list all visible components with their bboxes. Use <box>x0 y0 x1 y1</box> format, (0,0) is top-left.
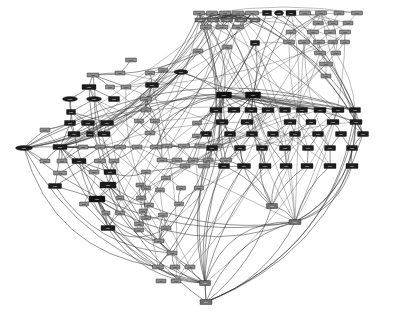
graph-node[interactable]: node <box>78 145 88 149</box>
graph-node[interactable]: node <box>146 71 155 75</box>
graph-node[interactable]: node <box>257 146 268 151</box>
graph-node[interactable]: node <box>268 132 279 137</box>
graph-node[interactable]: node <box>40 128 50 132</box>
graph-node[interactable]: node <box>121 85 131 89</box>
graph-node[interactable]: node <box>102 211 110 215</box>
graph-node[interactable]: node <box>207 146 218 151</box>
graph-node[interactable]: node <box>139 209 147 213</box>
graph-node[interactable]: node <box>98 132 110 137</box>
graph-node[interactable]: node <box>346 164 358 169</box>
graph-node[interactable]: node <box>68 132 80 137</box>
graph-node[interactable]: node <box>162 144 172 148</box>
graph-node[interactable]: node <box>80 202 89 206</box>
graph-node[interactable]: node <box>54 171 67 175</box>
graph-node[interactable]: node <box>193 121 202 125</box>
graph-node[interactable]: node <box>352 11 363 15</box>
graph-node[interactable]: node <box>210 108 222 113</box>
graph-node[interactable]: node <box>207 11 218 15</box>
graph-node[interactable]: node <box>65 121 76 126</box>
graph-node[interactable]: node <box>251 41 260 46</box>
graph-node[interactable]: node <box>132 145 142 149</box>
graph-node[interactable]: node <box>340 30 351 34</box>
graph-node[interactable]: node <box>142 216 151 220</box>
graph-node[interactable]: node <box>232 11 244 15</box>
graph-node[interactable]: node <box>101 121 114 126</box>
graph-node[interactable]: node <box>300 11 311 15</box>
graph-node[interactable]: node <box>286 11 296 16</box>
graph-node[interactable]: node <box>320 62 333 66</box>
graph-node[interactable]: node <box>327 120 339 125</box>
graph-node[interactable]: node <box>284 40 295 44</box>
graph-node[interactable]: node <box>141 108 151 112</box>
graph-node[interactable]: node <box>106 85 115 89</box>
graph-node[interactable]: node <box>219 164 230 169</box>
graph-node[interactable]: node <box>146 83 159 88</box>
graph-node[interactable]: node <box>151 145 162 149</box>
graph-node[interactable]: node <box>49 184 62 189</box>
graph-node[interactable]: node <box>222 45 232 49</box>
graph-node[interactable]: node <box>216 120 228 125</box>
graph-node[interactable]: node <box>193 49 203 53</box>
graph-node[interactable]: node <box>145 203 154 207</box>
graph-node[interactable]: node <box>193 134 202 138</box>
graph-node[interactable]: node <box>185 265 195 269</box>
graph-node[interactable]: node <box>241 120 253 125</box>
graph-node[interactable]: node <box>321 74 331 78</box>
graph-node[interactable]: node <box>116 211 125 215</box>
graph-node[interactable]: node <box>142 186 151 190</box>
graph-node[interactable]: node <box>233 25 244 29</box>
graph-node[interactable]: node <box>87 132 94 137</box>
graph-node[interactable]: node <box>284 120 296 125</box>
graph-node[interactable]: node <box>89 196 105 202</box>
graph-node[interactable]: node <box>208 18 219 22</box>
graph-node[interactable]: node <box>336 132 347 137</box>
graph-node[interactable]: node <box>135 222 144 226</box>
graph-node[interactable]: node <box>325 30 336 34</box>
graph-node[interactable]: node <box>109 97 120 102</box>
graph-node[interactable]: node <box>236 18 247 22</box>
graph-node[interactable]: node <box>180 164 190 168</box>
graph-node[interactable]: node <box>115 71 125 75</box>
graph-node[interactable]: node <box>238 164 251 169</box>
graph-node[interactable]: node <box>334 11 344 15</box>
graph-node[interactable]: node <box>156 188 165 192</box>
graph-node[interactable]: node <box>246 92 261 98</box>
graph-node[interactable]: node <box>167 251 177 255</box>
graph-node[interactable]: node <box>286 30 296 34</box>
graph-node[interactable]: node <box>87 73 99 77</box>
graph-node[interactable]: node <box>72 159 86 164</box>
graph-node[interactable]: node <box>188 158 198 162</box>
graph-node[interactable]: node <box>220 11 231 15</box>
graph-node[interactable]: node <box>53 145 67 150</box>
graph-node[interactable]: node <box>275 11 284 16</box>
graph-node[interactable]: node <box>159 213 168 217</box>
graph-node[interactable]: node <box>303 146 314 151</box>
graph-node[interactable]: node <box>156 279 166 283</box>
graph-node[interactable]: node <box>325 146 336 151</box>
graph-node[interactable]: node <box>145 131 155 135</box>
graph-node[interactable]: node <box>308 30 319 34</box>
graph-node[interactable]: node <box>153 265 164 269</box>
graph-node[interactable]: node <box>358 132 369 137</box>
graph-node[interactable]: node <box>316 11 327 15</box>
graph-node[interactable]: node <box>40 159 50 163</box>
graph-node[interactable]: node <box>170 265 180 269</box>
graph-node[interactable]: node <box>306 120 316 125</box>
graph-node[interactable]: node <box>200 300 212 305</box>
graph-node[interactable]: node <box>222 18 233 22</box>
graph-node[interactable]: node <box>301 164 313 169</box>
graph-node[interactable]: node <box>280 164 292 169</box>
graph-node[interactable]: node <box>87 97 102 102</box>
graph-node[interactable]: node <box>259 164 271 169</box>
graph-node[interactable]: node <box>151 119 160 123</box>
graph-node[interactable]: node <box>171 279 181 283</box>
graph-node[interactable]: node <box>314 40 325 44</box>
graph-node[interactable]: node <box>228 108 240 113</box>
graph-node[interactable]: node <box>195 186 204 190</box>
graph-node[interactable]: node <box>313 21 323 25</box>
graph-node[interactable]: node <box>289 220 301 225</box>
graph-node[interactable]: node <box>262 108 274 113</box>
graph-node[interactable]: node <box>172 158 182 162</box>
graph-node[interactable]: node <box>235 146 246 151</box>
graph-node[interactable]: node <box>199 164 210 168</box>
